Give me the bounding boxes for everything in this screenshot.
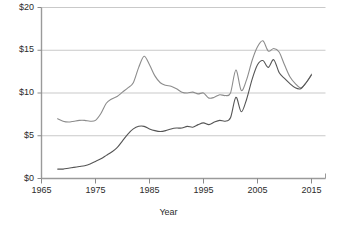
series-line-lower-line — [58, 60, 312, 170]
x-tick-label: 2015 — [292, 186, 332, 195]
x-tick-label: 1985 — [130, 186, 170, 195]
x-tick-label: 2005 — [238, 186, 278, 195]
series-lines — [58, 41, 312, 169]
chart-container: $0$5$10$15$20 196519751985199520052015 Y… — [0, 0, 337, 226]
gridlines — [42, 8, 326, 136]
x-tick-label: 1965 — [22, 186, 62, 195]
x-tick-label: 1975 — [76, 186, 116, 195]
x-axis-title: Year — [0, 207, 337, 217]
series-line-upper-line — [58, 41, 312, 122]
tick-marks — [38, 8, 326, 184]
x-tick-label: 1995 — [184, 186, 224, 195]
